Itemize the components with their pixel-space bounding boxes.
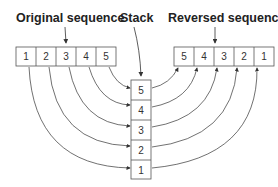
- reversed-cell: 2: [241, 51, 247, 62]
- stack-cell: 2: [138, 145, 144, 156]
- reversed-cell: 3: [221, 51, 227, 62]
- original-sequence-title: Original sequence: [16, 11, 124, 25]
- stack-column: 5 4 3 2 1: [131, 80, 151, 179]
- stack-cell: 1: [138, 165, 144, 176]
- stack-title: Stack: [120, 11, 153, 25]
- original-cell: 2: [43, 51, 49, 62]
- original-cell: 5: [103, 51, 109, 62]
- reversed-sequence-title: Reversed sequence: [168, 11, 278, 25]
- original-cell: 4: [83, 51, 89, 62]
- original-cell: 1: [23, 51, 29, 62]
- reversed-sequence-array: 5 4 3 2 1: [174, 47, 274, 66]
- original-pointer-arrow: [65, 27, 66, 43]
- reversed-cell: 4: [201, 51, 207, 62]
- stack-pointer-arrow: [134, 27, 141, 76]
- pop-arrows: [152, 68, 257, 168]
- push-arrows: [29, 67, 130, 168]
- original-cell: 3: [63, 51, 69, 62]
- stack-cell: 5: [138, 85, 144, 96]
- stack-reversal-diagram: Original sequence Stack Reversed sequenc…: [0, 0, 278, 187]
- stack-cell: 4: [138, 105, 144, 116]
- reversed-cell: 5: [181, 51, 187, 62]
- stack-cell: 3: [138, 125, 144, 136]
- reversed-cell: 1: [261, 51, 267, 62]
- original-sequence-array: 1 2 3 4 5: [16, 47, 116, 66]
